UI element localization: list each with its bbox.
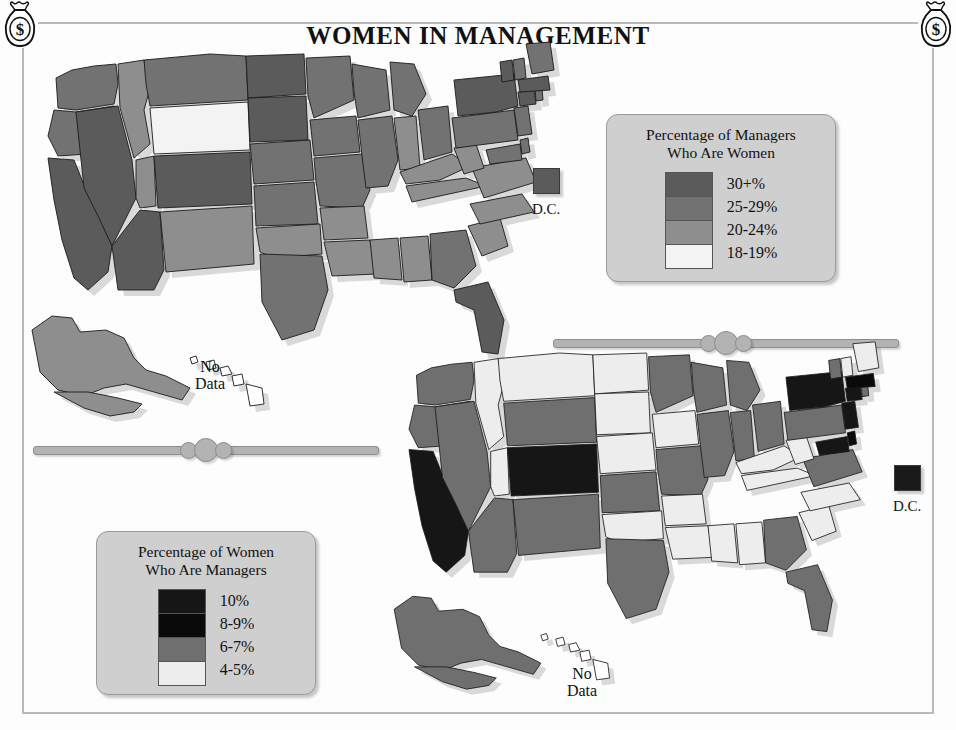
state-mt (498, 353, 595, 401)
legend-swatch (159, 662, 205, 685)
legend-label: 6-7% (220, 635, 255, 658)
state-nm (160, 206, 254, 272)
poster-canvas: $ $ WOMEN IN MANAGEMENT D.C. No Data Per… (0, 0, 956, 730)
legend-title: Percentage of Women Who Are Managers (97, 532, 315, 579)
legend-women-who-are-managers: Percentage of Women Who Are Managers 10%… (96, 531, 316, 695)
dc-swatch (894, 465, 921, 491)
dc-marker-bottom: D.C. (893, 465, 921, 515)
state-la (665, 526, 713, 559)
state-ut (136, 156, 156, 208)
state-nh (513, 58, 526, 80)
state-ut (491, 448, 510, 496)
state-al (400, 236, 432, 282)
state-wa (56, 64, 118, 110)
legend-swatch (159, 614, 205, 638)
state-co (154, 152, 252, 208)
state-fl (786, 565, 832, 632)
state-al (736, 522, 766, 565)
state-ok (602, 511, 663, 543)
state-ar (662, 494, 707, 526)
state-nh (841, 357, 853, 377)
state-oh (418, 106, 452, 160)
legend-title-line1: Percentage of Managers (607, 126, 835, 144)
legend-swatch-column (665, 172, 713, 269)
state-ak (415, 667, 497, 689)
state-oh (753, 401, 785, 451)
state-la (324, 240, 376, 276)
legend-swatch (666, 245, 712, 268)
state-ms (708, 524, 738, 563)
dc-label: D.C. (893, 498, 921, 515)
legend-body: 30+%25-29%20-24%18-19% (607, 172, 835, 269)
legend-label: 10% (220, 589, 255, 612)
legend-swatch (159, 638, 205, 662)
legend-swatch (666, 221, 712, 245)
legend-swatch-column (158, 589, 206, 686)
no-data-line2: Data (180, 375, 240, 392)
legend-title: Percentage of Managers Who Are Women (607, 115, 835, 162)
state-wy (504, 398, 597, 446)
state-mo (314, 154, 370, 208)
state-ak (54, 392, 142, 416)
dc-label: D.C. (532, 201, 560, 218)
state-ar (320, 206, 368, 240)
legend-label-column: 30+%25-29%20-24%18-19% (727, 172, 778, 269)
state-ok (256, 224, 322, 258)
state-hi (580, 650, 591, 661)
legend-swatch (159, 590, 205, 614)
legend-label: 25-29% (727, 195, 778, 218)
state-hi (246, 384, 264, 406)
legend-title-line1: Percentage of Women (97, 543, 315, 561)
legend-label: 18-19% (727, 241, 778, 264)
state-co (507, 444, 598, 496)
state-vt (829, 359, 842, 379)
state-de (520, 138, 530, 154)
no-data-line2: Data (552, 682, 612, 699)
legend-label: 4-5% (220, 658, 255, 681)
divider-bead-right (215, 442, 232, 459)
legend-body: 10%8-9%6-7%4-5% (97, 589, 315, 686)
no-data-label-top: No Data (180, 358, 240, 393)
state-hi (556, 637, 565, 646)
state-de (847, 431, 856, 446)
state-sd (248, 96, 308, 142)
state-nm (513, 494, 600, 555)
state-ia (652, 411, 698, 448)
dc-marker-top: D.C. (532, 168, 560, 218)
state-wi (352, 64, 390, 118)
state-ne (597, 433, 656, 474)
state-hi (569, 643, 580, 652)
divider-ornament (33, 437, 377, 461)
state-nd (593, 353, 649, 394)
state-sd (595, 392, 651, 435)
legend-title-line2: Who Are Managers (97, 561, 315, 579)
no-data-line1: No (180, 358, 240, 375)
state-wi (691, 362, 726, 412)
state-ia (310, 116, 360, 156)
legend-title-line2: Who Are Women (607, 144, 835, 162)
state-wa (416, 362, 474, 405)
state-ne (250, 140, 314, 184)
legend-label: 8-9% (220, 612, 255, 635)
legend-label-column: 10%8-9%6-7%4-5% (220, 589, 255, 686)
state-ks (600, 472, 659, 513)
legend-label: 30+% (727, 172, 778, 195)
legend-swatch (666, 173, 712, 197)
state-ms (370, 238, 402, 280)
state-nd (246, 54, 306, 98)
map-women-who-are-managers (356, 340, 956, 730)
legend-managers-who-are-women: Percentage of Managers Who Are Women 30+… (606, 114, 836, 282)
state-vt (500, 60, 514, 82)
state-mo (656, 446, 708, 496)
no-data-line1: No (552, 665, 612, 682)
legend-swatch (666, 197, 712, 221)
no-data-label-bottom: No Data (552, 665, 612, 700)
state-hi (541, 633, 548, 640)
state-ks (254, 182, 318, 226)
state-mt (144, 54, 248, 106)
dc-swatch (533, 168, 560, 194)
legend-label: 20-24% (727, 218, 778, 241)
state-wy (150, 102, 250, 154)
